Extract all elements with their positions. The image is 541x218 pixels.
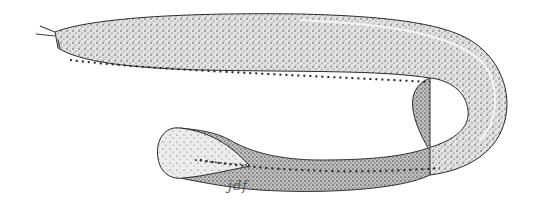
artist-signature: jdf [228, 178, 248, 193]
hagfish-illustration [0, 0, 541, 218]
hagfish-body-lower [180, 78, 430, 191]
